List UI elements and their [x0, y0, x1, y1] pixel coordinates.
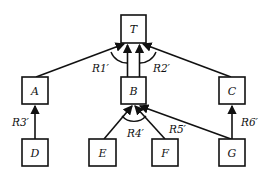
node-e: E	[89, 139, 116, 166]
node-b: B	[121, 77, 146, 104]
node-label-d: D	[30, 147, 40, 160]
rule-label-r2: R2′	[152, 62, 171, 74]
node-c: C	[219, 77, 245, 104]
node-t: T	[121, 15, 146, 43]
node-d: D	[22, 139, 48, 166]
arc-r1	[111, 52, 128, 63]
arc-r4	[122, 116, 146, 121]
node-g: G	[219, 139, 245, 166]
node-label-a: A	[30, 85, 39, 98]
rule-label-r3: R3′	[11, 116, 30, 128]
node-a: A	[22, 77, 48, 104]
node-label-e: E	[97, 147, 106, 160]
rule-label-r1: R1′	[91, 62, 110, 74]
node-label-b: B	[128, 85, 137, 98]
node-label-g: G	[228, 147, 237, 160]
node-label-f: F	[160, 147, 169, 160]
rule-label-r5: R5′	[168, 123, 187, 135]
and-or-diagram: T A B C D E F G R1′ R2′ R3′ R4′ R5′ R6′	[0, 0, 269, 179]
node-label-c: C	[228, 85, 237, 98]
rule-label-r6: R6′	[240, 116, 259, 128]
node-f: F	[152, 139, 178, 166]
rule-label-r4: R4′	[126, 127, 145, 139]
edge-a-to-t	[36, 44, 124, 77]
